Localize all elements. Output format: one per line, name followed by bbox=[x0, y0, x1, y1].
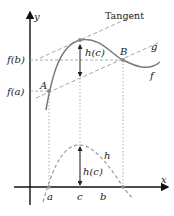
f-label: f bbox=[149, 70, 156, 81]
c-tick-label: c bbox=[77, 191, 83, 202]
point-a bbox=[47, 185, 51, 189]
b-tick-label: b bbox=[100, 191, 106, 202]
tangent-label: Tangent bbox=[105, 10, 144, 21]
mvt-diagram: y x Tangent f(b) f(a) A B g f h h(c) h(c… bbox=[0, 0, 174, 216]
x-axis-label: x bbox=[161, 174, 167, 185]
point-B-label: B bbox=[119, 46, 127, 57]
point-A bbox=[47, 89, 51, 93]
fa-label: f(a) bbox=[6, 86, 25, 97]
point-B bbox=[121, 58, 125, 62]
hc-top-label: h(c) bbox=[85, 47, 105, 58]
point-b bbox=[121, 185, 125, 189]
point-peak bbox=[78, 38, 82, 42]
hc-bottom-label: h(c) bbox=[83, 166, 103, 177]
h-label: h bbox=[104, 150, 110, 161]
a-tick-label: a bbox=[47, 191, 53, 202]
fb-label: f(b) bbox=[6, 54, 25, 65]
y-axis-label: y bbox=[33, 11, 40, 22]
point-A-label: A bbox=[39, 80, 47, 91]
g-label: g bbox=[151, 41, 157, 52]
